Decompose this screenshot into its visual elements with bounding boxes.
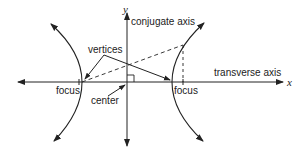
y-axis-label: y — [122, 3, 128, 15]
right-angle-marker — [127, 75, 134, 82]
vertices-pointer-right — [104, 55, 170, 80]
hyperbola-left-branch-lower-arrow — [54, 100, 80, 141]
transverse-axis-label: transverse axis — [214, 67, 281, 78]
vertices-label: vertices — [88, 44, 122, 55]
focus-left-label: focus — [56, 85, 80, 96]
hyperbola-diagram: y conjugate axis vertices transverse axi… — [0, 0, 295, 154]
hyperbola-right-branch-lower-arrow — [174, 100, 203, 141]
center-label: center — [91, 95, 119, 106]
x-axis-label: x — [286, 76, 292, 88]
vertices-pointer-left — [85, 55, 104, 79]
focus-right-label: focus — [174, 85, 198, 96]
conjugate-axis-label: conjugate axis — [131, 16, 195, 27]
